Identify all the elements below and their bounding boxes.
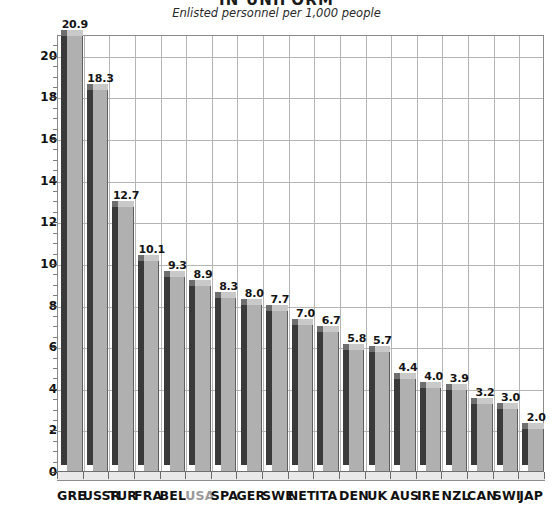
y-axis-tick-major: [50, 56, 57, 57]
bar-front-face: [298, 325, 313, 471]
gridline-vertical: [263, 36, 264, 471]
bar-value-label: 18.3: [87, 72, 114, 85]
x-axis-category-label: NET: [288, 488, 314, 503]
bar-value-label: 9.3: [164, 259, 191, 272]
bar-column: [522, 423, 537, 471]
bar-column: [369, 346, 384, 471]
gridline-horizontal: [58, 182, 543, 183]
x-axis-category-label: TUR: [108, 488, 134, 503]
bar-front-face: [323, 332, 338, 471]
x-axis-category-label: AUS: [390, 488, 416, 503]
x-axis-tick: [493, 472, 494, 479]
bar-column: [292, 319, 307, 471]
x-axis-tick: [236, 472, 237, 479]
bar-column: [497, 403, 512, 471]
x-axis-category-label: UK: [365, 488, 391, 503]
bar-value-label: 5.7: [369, 334, 396, 347]
gridline-vertical: [237, 36, 238, 471]
bar-column: [215, 292, 230, 471]
bar-column: [112, 201, 127, 471]
bar-front-face: [452, 390, 467, 471]
bar-value-label: 4.4: [394, 361, 421, 374]
bar-value-label: 20.9: [61, 18, 88, 31]
y-axis-tick-major: [50, 181, 57, 182]
bar-front-face: [67, 36, 82, 471]
bar-value-label: 3.9: [446, 372, 473, 385]
x-axis-category-label: ITA: [313, 488, 339, 503]
bar-value-label: 2.0: [522, 411, 549, 424]
x-axis-tick: [544, 472, 545, 479]
y-axis-tick-major: [50, 306, 57, 307]
bar-value-label: 8.3: [215, 280, 242, 293]
x-axis-category-label: FRA: [134, 488, 160, 503]
bar-value-label: 5.8: [343, 332, 370, 345]
bar-column: [317, 326, 332, 471]
x-axis-tick: [262, 472, 263, 479]
bar-front-face: [528, 429, 543, 471]
gridline-vertical: [186, 36, 187, 471]
x-axis-tick: [365, 472, 366, 479]
gridline-vertical: [212, 36, 213, 471]
axis-base-3d: [57, 472, 545, 481]
bar-value-label: 12.7: [112, 189, 139, 202]
bar-value-label: 6.7: [317, 314, 344, 327]
x-axis-tick: [185, 472, 186, 479]
gridline-vertical: [391, 36, 392, 471]
x-axis-tick: [83, 472, 84, 479]
gridline-vertical: [468, 36, 469, 471]
gridline-horizontal: [58, 98, 543, 99]
gridline-vertical: [494, 36, 495, 471]
gridline-vertical: [366, 36, 367, 471]
gridline-vertical: [442, 36, 443, 471]
x-axis-category-label: CAN: [467, 488, 493, 503]
x-axis-category-label: IRE: [416, 488, 442, 503]
plot-area: 20.918.312.710.19.38.98.38.07.77.06.75.8…: [57, 35, 544, 472]
bar-column: [189, 280, 204, 471]
chart-root: IN UNIFORM Enlisted personnel per 1,000 …: [0, 0, 553, 516]
x-axis-category-label: GER: [236, 488, 262, 503]
y-axis-tick-major: [50, 347, 57, 348]
x-axis-tick: [390, 472, 391, 479]
bar-front-face: [272, 311, 287, 471]
bar-column: [266, 305, 281, 471]
y-axis: 02468101214161820: [20, 35, 57, 472]
y-axis-tick-major: [50, 264, 57, 265]
x-axis-tick: [339, 472, 340, 479]
x-axis-tick: [288, 472, 289, 479]
x-axis-category-label: SWI: [493, 488, 519, 503]
x-axis-tick: [108, 472, 109, 479]
gridline-vertical: [289, 36, 290, 471]
x-axis: GREUSSRTURFRABELUSASPAGERSWENETITADENUKA…: [0, 472, 553, 516]
x-axis-tick: [313, 472, 314, 479]
bar-front-face: [118, 207, 133, 471]
bar-value-label: 10.1: [138, 243, 165, 256]
y-axis-tick-major: [50, 139, 57, 140]
bar-column: [61, 30, 76, 471]
gridline-vertical: [519, 36, 520, 471]
y-axis-tick-major: [50, 430, 57, 431]
x-axis-tick: [467, 472, 468, 479]
gridline-vertical: [340, 36, 341, 471]
bar-value-label: 8.9: [189, 268, 216, 281]
y-axis-tick-major: [50, 97, 57, 98]
bar-front-face: [349, 350, 364, 471]
gridline-horizontal: [58, 140, 543, 141]
bar-front-face: [93, 90, 108, 471]
x-axis-category-label: DEN: [339, 488, 365, 503]
bar-value-label: 8.0: [241, 287, 268, 300]
bar-front-face: [503, 409, 518, 471]
bar-value-label: 7.0: [292, 307, 319, 320]
gridline-vertical: [84, 36, 85, 471]
gridline-vertical: [135, 36, 136, 471]
x-axis-category-label: SPA: [211, 488, 237, 503]
bar-front-face: [221, 298, 236, 471]
x-axis-category-label: SWE: [262, 488, 288, 503]
bar-value-label: 4.0: [420, 370, 447, 383]
bar-value-label: 3.0: [497, 391, 524, 404]
bar-front-face: [477, 404, 492, 471]
bar-front-face: [247, 305, 262, 471]
bar-column: [471, 398, 486, 471]
x-axis-category-label: JAP: [518, 488, 544, 503]
x-axis-tick: [518, 472, 519, 479]
bar-front-face: [426, 388, 441, 471]
